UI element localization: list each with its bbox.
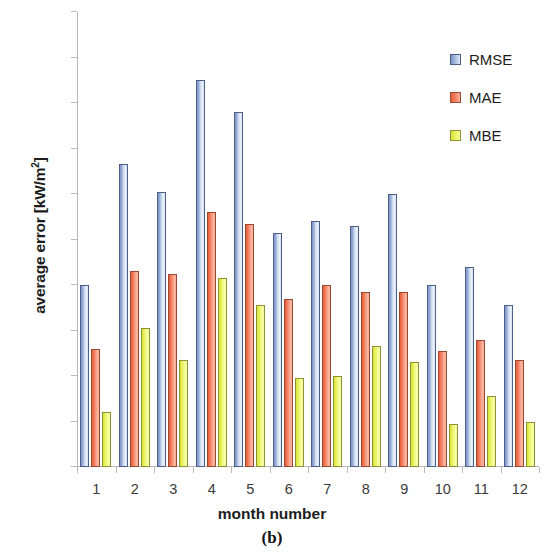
bar-mbe[interactable] xyxy=(218,278,227,467)
x-tick xyxy=(193,467,194,473)
x-tick xyxy=(424,467,425,473)
bar-rmse[interactable] xyxy=(388,194,397,467)
x-tick-label: 11 xyxy=(461,481,501,497)
bar-mbe[interactable] xyxy=(526,422,535,468)
y-tick xyxy=(71,421,77,422)
bar-mae[interactable] xyxy=(476,340,485,467)
x-tick-label: 4 xyxy=(192,481,232,497)
legend-swatch-mae-icon xyxy=(450,92,461,103)
x-tick xyxy=(270,467,271,473)
x-tick-label: 3 xyxy=(153,481,193,497)
bar-rmse[interactable] xyxy=(311,221,320,467)
bar-mae[interactable] xyxy=(91,349,100,467)
x-tick xyxy=(154,467,155,473)
bar-rmse[interactable] xyxy=(273,233,282,467)
panel-caption: (b) xyxy=(0,528,544,548)
legend-label-rmse: RMSE xyxy=(469,51,512,68)
y-axis-title: average error [kW/m2] xyxy=(30,86,49,386)
y-tick xyxy=(71,330,77,331)
bar-rmse[interactable] xyxy=(504,305,513,467)
bar-rmse[interactable] xyxy=(80,285,89,467)
bar-rmse[interactable] xyxy=(350,226,359,467)
bar-mbe[interactable] xyxy=(487,396,496,467)
x-tick-label: 9 xyxy=(384,481,424,497)
bar-mae[interactable] xyxy=(207,212,216,467)
bar-mbe[interactable] xyxy=(102,412,111,467)
x-axis-title: month number xyxy=(0,505,544,523)
bar-group xyxy=(311,12,344,467)
x-tick xyxy=(77,467,78,473)
bar-group xyxy=(196,12,229,467)
bar-mae[interactable] xyxy=(515,360,524,467)
bar-mae[interactable] xyxy=(168,274,177,467)
legend-swatch-mbe-icon xyxy=(450,130,461,141)
x-tick xyxy=(462,467,463,473)
x-tick-label: 7 xyxy=(307,481,347,497)
x-tick xyxy=(308,467,309,473)
bar-mbe[interactable] xyxy=(256,305,265,467)
bar-mae[interactable] xyxy=(361,292,370,467)
bar-rmse[interactable] xyxy=(119,164,128,467)
y-tick xyxy=(71,284,77,285)
legend: RMSE MAE MBE xyxy=(450,40,544,154)
x-tick xyxy=(501,467,502,473)
x-tick-label: 2 xyxy=(115,481,155,497)
bar-rmse[interactable] xyxy=(465,267,474,467)
y-tick xyxy=(71,193,77,194)
x-tick-label: 1 xyxy=(76,481,116,497)
y-axis-title-text: average error [kW/m2] xyxy=(32,157,49,313)
bar-group xyxy=(350,12,383,467)
figure-panel-b: average error [kW/m2] 0.000.020.040.060.… xyxy=(0,0,544,554)
x-tick xyxy=(231,467,232,473)
bar-group xyxy=(80,12,113,467)
y-tick xyxy=(71,375,77,376)
x-tick-label: 6 xyxy=(269,481,309,497)
bar-mbe[interactable] xyxy=(141,328,150,467)
bar-rmse[interactable] xyxy=(196,80,205,467)
bar-mae[interactable] xyxy=(130,271,139,467)
bar-mbe[interactable] xyxy=(179,360,188,467)
bar-mbe[interactable] xyxy=(333,376,342,467)
x-tick-label: 12 xyxy=(500,481,540,497)
bar-rmse[interactable] xyxy=(427,285,436,467)
x-tick xyxy=(385,467,386,473)
y-tick xyxy=(71,148,77,149)
y-tick xyxy=(71,239,77,240)
legend-item-mbe[interactable]: MBE xyxy=(450,116,544,154)
bar-mae[interactable] xyxy=(399,292,408,467)
x-tick-label: 10 xyxy=(423,481,463,497)
legend-swatch-rmse-icon xyxy=(450,54,461,65)
x-tick-label: 8 xyxy=(346,481,386,497)
y-axis-line xyxy=(77,12,78,467)
bar-mae[interactable] xyxy=(438,351,447,467)
bar-group xyxy=(234,12,267,467)
x-tick-label: 5 xyxy=(230,481,270,497)
x-tick xyxy=(116,467,117,473)
bar-group xyxy=(119,12,152,467)
bar-group xyxy=(388,12,421,467)
y-tick xyxy=(71,102,77,103)
legend-label-mbe: MBE xyxy=(469,127,502,144)
bar-mae[interactable] xyxy=(284,299,293,467)
y-tick xyxy=(71,57,77,58)
bar-rmse[interactable] xyxy=(157,192,166,467)
bar-mbe[interactable] xyxy=(372,346,381,467)
bar-mae[interactable] xyxy=(245,224,254,467)
legend-item-rmse[interactable]: RMSE xyxy=(450,40,544,78)
y-tick xyxy=(71,11,77,12)
bar-group xyxy=(273,12,306,467)
legend-label-mae: MAE xyxy=(469,89,502,106)
legend-item-mae[interactable]: MAE xyxy=(450,78,544,116)
bar-mbe[interactable] xyxy=(410,362,419,467)
x-tick xyxy=(539,467,540,473)
bar-rmse[interactable] xyxy=(234,112,243,467)
bar-mae[interactable] xyxy=(322,285,331,467)
bar-mbe[interactable] xyxy=(295,378,304,467)
bar-mbe[interactable] xyxy=(449,424,458,467)
bar-group xyxy=(157,12,190,467)
x-tick xyxy=(347,467,348,473)
